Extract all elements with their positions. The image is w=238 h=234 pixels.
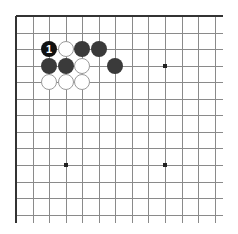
black-stone[interactable] xyxy=(58,58,74,74)
black-stone[interactable] xyxy=(41,58,57,74)
grid-line-horizontal xyxy=(16,33,223,34)
grid-line-vertical xyxy=(148,16,149,223)
grid-line-vertical xyxy=(132,16,133,223)
board-edge-left xyxy=(15,16,17,223)
white-stone[interactable] xyxy=(58,74,74,90)
go-board[interactable]: 1 xyxy=(0,0,238,234)
white-stone[interactable] xyxy=(74,74,90,90)
star-point-icon xyxy=(163,64,167,68)
board-edge-top xyxy=(16,15,223,17)
grid-line-horizontal xyxy=(16,132,223,133)
white-stone[interactable] xyxy=(58,41,74,57)
grid-line-horizontal xyxy=(16,148,223,149)
grid-line-vertical xyxy=(33,16,34,223)
grid-line-vertical xyxy=(165,16,166,223)
grid-line-horizontal xyxy=(16,165,223,166)
star-point-icon xyxy=(163,163,167,167)
grid-line-vertical xyxy=(182,16,183,223)
black-stone[interactable] xyxy=(107,58,123,74)
grid-line-vertical xyxy=(198,16,199,223)
black-stone[interactable] xyxy=(74,41,90,57)
white-stone[interactable] xyxy=(41,74,57,90)
grid-line-horizontal xyxy=(16,215,223,216)
grid-line-horizontal xyxy=(16,115,223,116)
black-stone[interactable] xyxy=(91,41,107,57)
move-number-label: 1 xyxy=(46,44,52,55)
grid-line-vertical xyxy=(115,16,116,223)
white-stone[interactable] xyxy=(74,58,90,74)
black-stone[interactable]: 1 xyxy=(41,41,57,57)
grid-line-horizontal xyxy=(16,99,223,100)
star-point-icon xyxy=(64,163,68,167)
grid-line-horizontal xyxy=(16,182,223,183)
grid-line-horizontal xyxy=(16,198,223,199)
grid-line-vertical xyxy=(215,16,216,223)
